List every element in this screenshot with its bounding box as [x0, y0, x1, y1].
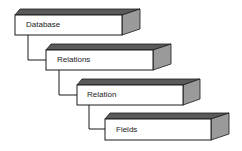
connector-relations-relation [59, 70, 77, 95]
label-fields: Fields [116, 125, 137, 135]
label-relation: Relation [87, 90, 116, 100]
label-database: Database [26, 20, 60, 30]
label-relations: Relations [57, 55, 90, 65]
connector-database-relations [28, 35, 46, 60]
connector-relation-fields [89, 105, 105, 129]
